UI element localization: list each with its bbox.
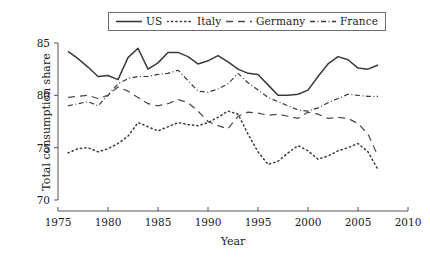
x-tick-label: 1990: [195, 217, 222, 228]
y-axis-title: Total consumption share: [40, 42, 53, 202]
series-line-italy: [68, 111, 378, 170]
x-tick-label: 2005: [345, 217, 372, 228]
x-axis-title: Year: [58, 235, 408, 248]
x-tick-label: 1980: [95, 217, 122, 228]
x-tick-label: 2010: [395, 217, 422, 228]
axes-layer: [54, 43, 408, 211]
x-tick-label: 1975: [45, 217, 72, 228]
y-axis-title-wrap: Total consumption share: [22, 43, 36, 201]
series-layer: [68, 48, 378, 169]
x-tick-label: 2000: [295, 217, 322, 228]
chart-figure: US Italy Germany France 7075808519751980…: [0, 0, 430, 259]
x-tick-label: 1995: [245, 217, 272, 228]
x-tick-label: 1985: [145, 217, 172, 228]
